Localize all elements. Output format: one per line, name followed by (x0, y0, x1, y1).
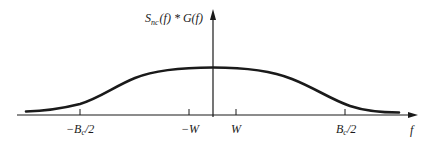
y-axis-arrow-icon (210, 9, 216, 20)
x-axis-label: f (410, 123, 415, 137)
tick-label-neg-bc2: −Bc/2 (66, 122, 94, 137)
y-axis-label: Snc(f) * G(f) (145, 11, 203, 27)
x-axis-arrow-icon (408, 112, 418, 118)
tick-label-pos-w: W (231, 122, 242, 136)
y-label-rest: (f) * G(f) (160, 11, 203, 25)
tick-label-neg-w: −W (181, 122, 200, 136)
spectrum-figure: Snc(f) * G(f) −Bc/2 −W W Bc/2 f (0, 0, 432, 142)
tick-label-pos-bc2: Bc/2 (336, 122, 356, 137)
y-label-sub: nc (151, 18, 159, 27)
